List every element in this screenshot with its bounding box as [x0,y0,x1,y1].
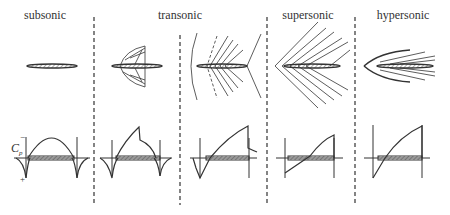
cp-subsonic [14,137,90,178]
airfoil-hypersonic [377,64,433,68]
flow-regimes-diagram: C p − + [0,0,450,215]
cp-supersonic [276,135,343,178]
cp-axis-sub: p [18,149,23,157]
cp-hypersonic [364,125,430,178]
airfoil-subsonic [27,64,77,68]
cp-transonic-2 [190,126,257,178]
cp-transonic-1 [100,127,172,178]
airfoil-transonic-2 [197,64,247,68]
cp-minus-sign: − [20,132,25,142]
cp-plus-sign: + [20,174,25,184]
airfoil-transonic-1 [112,64,162,68]
